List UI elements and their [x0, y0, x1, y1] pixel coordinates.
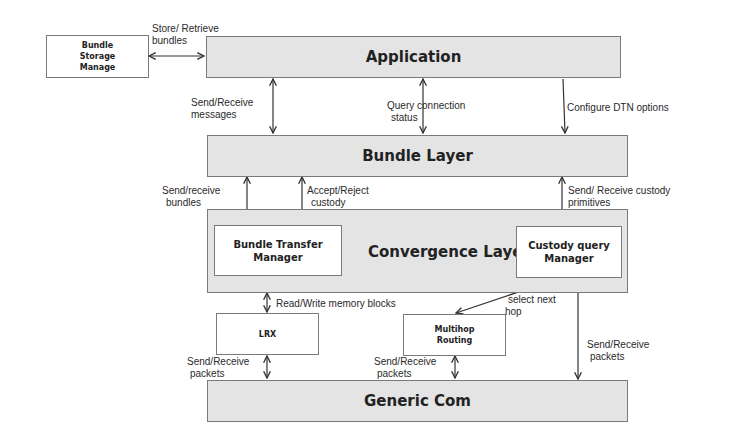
label-line: Send/ Receive custody: [568, 185, 670, 197]
label-line: bundles: [162, 197, 220, 209]
label-line: packets: [187, 368, 249, 380]
label-line: Store/ Retrieve: [152, 23, 219, 35]
node-bundle-storage: Bundle Storage Manage: [46, 35, 149, 78]
label-line: Accept/Reject: [307, 185, 369, 197]
node-custody-query-line2: Manager: [528, 252, 610, 265]
label-select-next-hop: select next hop: [505, 294, 556, 318]
node-application-label: Application: [366, 48, 462, 66]
label-line: Query connection: [387, 100, 465, 112]
label-line: Send/Receive: [374, 356, 436, 368]
node-bundle-storage-line3: Manage: [80, 62, 116, 73]
label-line: bundles: [152, 35, 219, 47]
node-bundle-storage-line2: Storage: [80, 51, 116, 62]
node-bundle-layer: Bundle Layer: [207, 135, 628, 177]
label-line: Send/Receive: [191, 97, 253, 109]
node-generic-com-label: Generic Com: [364, 392, 471, 410]
node-bundle-layer-label: Bundle Layer: [362, 147, 473, 165]
node-lrx-label: LRX: [259, 329, 276, 340]
label-line: packets: [374, 368, 436, 380]
label-line: messages: [191, 109, 253, 121]
label-store-retrieve: Store/ Retrieve bundles: [152, 23, 219, 47]
node-bundle-transfer-manager: Bundle Transfer Manager: [214, 225, 342, 276]
label-line: Send/receive: [162, 185, 220, 197]
label-line: Send/Receive: [187, 356, 249, 368]
label-read-write: Read/Write memory blocks: [276, 298, 396, 310]
node-bundle-transfer-line1: Bundle Transfer: [233, 238, 322, 251]
label-line: Configure DTN options: [567, 102, 669, 114]
node-custody-query-line1: Custody query: [528, 239, 610, 252]
label-custody-primitives: Send/ Receive custody primitives: [568, 185, 670, 209]
node-lrx: LRX: [216, 313, 319, 355]
label-line: packets: [587, 351, 649, 363]
label-custody-packets: Send/Receive packets: [587, 339, 649, 363]
node-convergence-layer-label: Convergence Layer: [368, 243, 530, 261]
label-line: Send/Receive: [587, 339, 649, 351]
node-multihop-line2: Routing: [435, 335, 475, 346]
node-custody-query-manager: Custody query Manager: [516, 226, 622, 278]
label-accept-reject: Accept/Reject custody: [307, 185, 369, 209]
label-configure-dtn: Configure DTN options: [567, 102, 669, 114]
label-line: hop: [505, 306, 556, 318]
label-line: status: [387, 112, 465, 124]
label-send-receive-messages: Send/Receive messages: [191, 97, 253, 121]
label-line: custody: [307, 197, 369, 209]
label-query-connection: Query connection status: [387, 100, 465, 124]
node-application: Application: [206, 36, 621, 78]
node-bundle-transfer-line2: Manager: [233, 251, 322, 264]
node-multihop-line1: Multihop: [435, 324, 475, 335]
label-multihop-packets: Send/Receive packets: [374, 356, 436, 380]
node-multihop-routing: Multihop Routing: [403, 314, 506, 356]
node-bundle-storage-line1: Bundle: [80, 40, 116, 51]
label-send-receive-bundles: Send/receive bundles: [162, 185, 220, 209]
label-line: Read/Write memory blocks: [276, 298, 396, 310]
label-line: primitives: [568, 197, 670, 209]
label-lrx-packets: Send/Receive packets: [187, 356, 249, 380]
edge-configure-dtn: [563, 79, 565, 133]
node-generic-com: Generic Com: [207, 380, 628, 422]
label-line: select next: [505, 294, 556, 306]
